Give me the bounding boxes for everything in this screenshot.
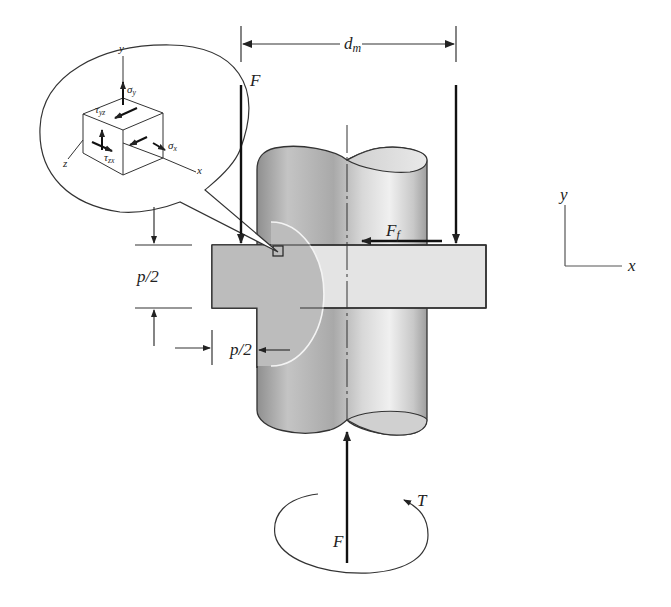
friction-force-label: Ff bbox=[386, 222, 400, 242]
power-screw-diagram: dm F Ff p/2 p/2 F T y x y x z σy σx τyz … bbox=[0, 0, 671, 607]
pitch-half-horizontal-label: p/2 bbox=[230, 341, 252, 358]
axis-y-label: y bbox=[560, 186, 568, 203]
callout-bubble bbox=[40, 45, 278, 252]
pitch-half-vertical-label: p/2 bbox=[137, 268, 159, 285]
axis-x-label: x bbox=[628, 257, 636, 274]
tau-zx-label: τzx bbox=[104, 152, 114, 165]
force-top-label: F bbox=[250, 72, 260, 89]
torque-label: T bbox=[417, 492, 426, 509]
element-axis-y-label: y bbox=[119, 43, 124, 54]
sigma-x-label: σx bbox=[168, 140, 177, 153]
sigma-y-label: σy bbox=[127, 84, 136, 97]
force-bottom-label: F bbox=[333, 533, 343, 550]
torque-arrow bbox=[275, 494, 428, 573]
global-axes bbox=[565, 205, 622, 266]
pitch-diameter-label: dm bbox=[344, 35, 361, 55]
tau-yz-label: τyz bbox=[95, 104, 105, 117]
diagram-canvas bbox=[0, 0, 671, 607]
element-axis-z-label: z bbox=[63, 158, 67, 169]
element-axis-x-label: x bbox=[197, 165, 202, 176]
